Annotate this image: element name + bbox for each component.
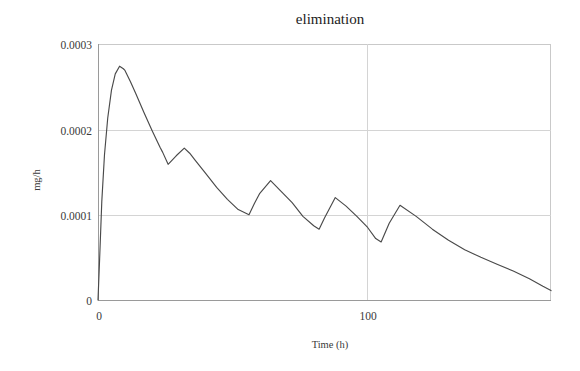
chart-title: elimination (296, 11, 365, 27)
chart-background (0, 0, 580, 371)
y-tick-label-0: 0 (86, 295, 92, 307)
y-tick-label-0.0003: 0.0003 (60, 39, 92, 51)
elimination-line-chart: 0.0003 0.0002 0.0001 0 0 100 elimination… (0, 0, 580, 371)
y-tick-label-0.0002: 0.0002 (60, 125, 92, 137)
x-axis-title: Time (h) (312, 339, 349, 351)
x-tick-label-0: 0 (96, 310, 102, 322)
chart-figure: 0.0003 0.0002 0.0001 0 0 100 elimination… (0, 0, 580, 371)
x-tick-label-100: 100 (359, 310, 377, 322)
y-tick-label-0.0001: 0.0001 (60, 210, 92, 222)
y-axis-title: mg/h (31, 168, 42, 190)
